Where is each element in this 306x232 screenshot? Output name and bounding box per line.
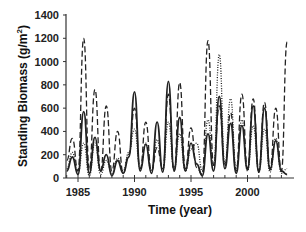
y-tick-label: 0 (53, 172, 59, 184)
y-tick-label: 800 (41, 79, 59, 91)
y-tick-label: 1000 (35, 56, 59, 68)
y-tick-label: 1400 (35, 9, 59, 21)
x-axis-title: Time (year) (148, 203, 212, 217)
y-tick-label: 400 (41, 125, 59, 137)
x-tick-label: 1995 (179, 186, 203, 198)
x-tick-label: 1990 (122, 186, 146, 198)
x-tick-label: 2000 (235, 186, 259, 198)
y-tick-label: 1200 (35, 32, 59, 44)
y-ticks: 0200400600800100012001400 (35, 9, 66, 184)
x-tick-label: 1985 (66, 186, 90, 198)
y-tick-label: 600 (41, 102, 59, 114)
y-axis-title: Standing Biomass (g/m2) (15, 25, 30, 167)
biomass-chart: 0200400600800100012001400 19851990199520… (0, 0, 306, 232)
plot-lines (67, 38, 287, 175)
y-tick-label: 200 (41, 149, 59, 161)
